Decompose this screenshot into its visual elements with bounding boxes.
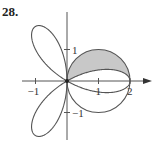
- x-tick-label: 2: [127, 85, 133, 97]
- polar-plot: −1121−1: [0, 0, 158, 152]
- y-tick-label: −1: [72, 107, 84, 119]
- y-tick-label: 1: [72, 44, 78, 56]
- x-tick-label: −1: [28, 85, 40, 97]
- origin-dot: [65, 79, 69, 83]
- x-tick-label: 1: [96, 85, 102, 97]
- figure: 28. −1121−1: [0, 0, 158, 152]
- x-axis-arrow-icon: [143, 78, 152, 84]
